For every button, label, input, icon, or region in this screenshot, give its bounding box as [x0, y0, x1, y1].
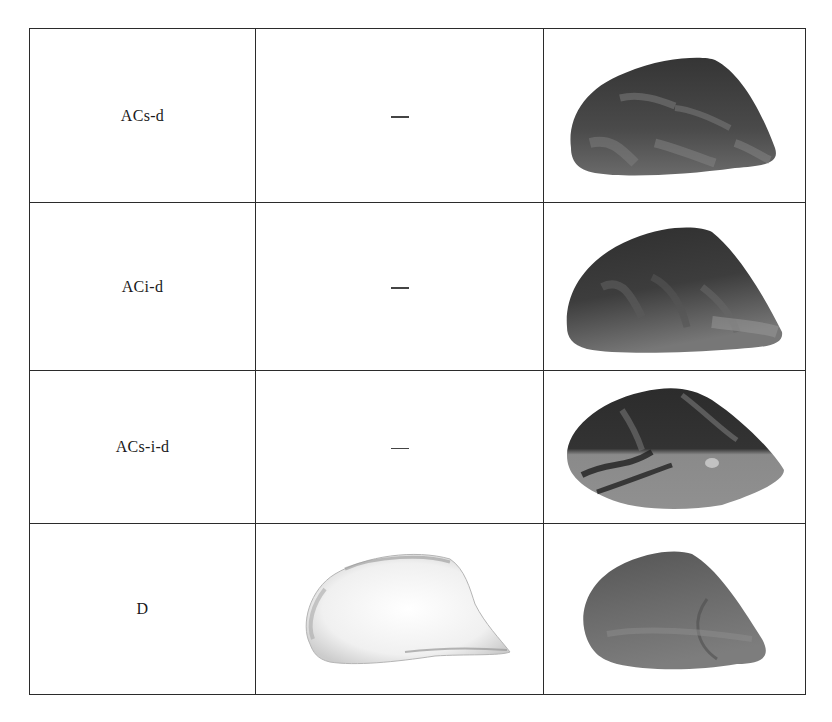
row-label-cell: ACi-d: [30, 203, 256, 371]
shell-image-cell: [544, 29, 806, 203]
table-row: D: [30, 524, 806, 695]
table-row: ACs-i-d: [30, 371, 806, 524]
shell-comparison-table: ACs-d: [29, 28, 806, 695]
middle-cell: [256, 524, 544, 695]
shell-image: [567, 539, 782, 679]
row-label: ACs-i-d: [116, 438, 170, 455]
row-label: ACi-d: [122, 278, 164, 295]
shell-image-cell: [544, 371, 806, 524]
middle-cell: [256, 29, 544, 203]
shell-image-cell: [544, 524, 806, 695]
middle-cell: [256, 371, 544, 524]
row-label: D: [137, 600, 149, 617]
shell-image: [565, 48, 785, 183]
shell-image-cell: [544, 203, 806, 371]
row-label-cell: ACs-d: [30, 29, 256, 203]
row-label-cell: D: [30, 524, 256, 695]
dash-placeholder: [391, 448, 409, 450]
table-row: ACs-d: [30, 29, 806, 203]
shell-image: [562, 217, 787, 357]
dash-placeholder: [391, 287, 409, 289]
dash-placeholder: [391, 116, 409, 118]
shell-image-white: [285, 544, 515, 674]
shell-image: [562, 380, 787, 515]
row-label-cell: ACs-i-d: [30, 371, 256, 524]
row-label: ACs-d: [121, 107, 164, 124]
middle-cell: [256, 203, 544, 371]
table-row: ACi-d: [30, 203, 806, 371]
